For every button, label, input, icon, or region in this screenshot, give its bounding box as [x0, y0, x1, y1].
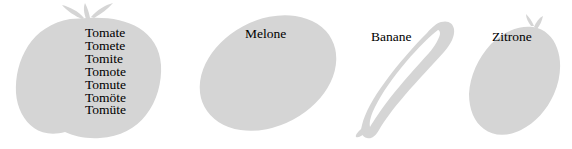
melon-shape — [180, 0, 357, 149]
melon-label: Melone — [245, 27, 286, 41]
banana-label: Banane — [371, 30, 411, 44]
fruit-word-illustration: Tomate Tomete Tomite Tomote Tomute Tomöt… — [0, 0, 572, 149]
lemon-label: Zitrone — [492, 30, 532, 44]
tomato-word-line: Tomüte — [85, 104, 126, 117]
tomato-word-list: Tomate Tomete Tomite Tomote Tomute Tomöt… — [85, 27, 126, 117]
